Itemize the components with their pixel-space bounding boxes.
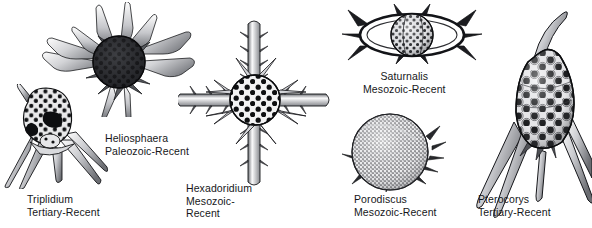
heliosphaera-test (93, 36, 145, 88)
caption-pterocorys: Pterocorys Tertiary-Recent (478, 193, 551, 218)
specimen-hexadoridium (178, 18, 330, 188)
caption-porodiscus: Porodiscus Mesozoic-Recent (354, 193, 437, 218)
caption-hexadoridium: Hexadoridium Mesozoic- Recent (186, 182, 252, 220)
genus-name-pterocorys: Pterocorys (478, 193, 551, 206)
specimen-triplidium (0, 84, 120, 189)
genus-name-saturnalis: Saturnalis (363, 70, 446, 83)
porodiscus-test (352, 114, 428, 190)
specimen-porodiscus (340, 112, 448, 194)
caption-triplidium: Triplidium Tertiary-Recent (27, 193, 100, 218)
age-range-triplidium: Tertiary-Recent (27, 206, 100, 219)
age-range-pterocorys: Tertiary-Recent (478, 206, 551, 219)
genus-name-hexadoridium: Hexadoridium (186, 182, 252, 195)
caption-saturnalis: Saturnalis Mesozoic-Recent (363, 70, 446, 95)
specimen-saturnalis (342, 4, 482, 66)
age-range-saturnalis: Mesozoic-Recent (363, 83, 446, 96)
genus-name-triplidium: Triplidium (27, 193, 100, 206)
radiolarian-figure-plate: Heliosphaera Paleozoic-Recent (0, 0, 592, 228)
genus-name-porodiscus: Porodiscus (354, 193, 437, 206)
pterocorys-test (516, 49, 574, 148)
age-range-hexadoridium: Mesozoic- (186, 195, 252, 208)
age-range-hexadoridium-line2: Recent (186, 207, 252, 220)
age-range-porodiscus: Mesozoic-Recent (354, 206, 437, 219)
saturnalis-test (391, 14, 433, 56)
